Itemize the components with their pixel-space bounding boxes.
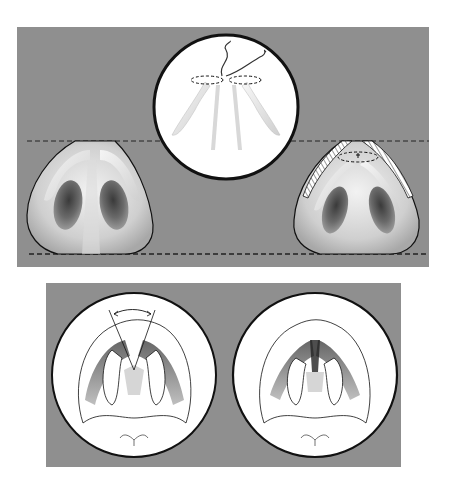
top-illustration [17, 27, 429, 267]
bottom-illustration [46, 283, 401, 467]
approximated-domes-circle [233, 293, 397, 457]
magnified-suture-inset [154, 35, 298, 179]
bottom-panel [46, 283, 401, 467]
top-panel [17, 27, 429, 267]
divergent-domes-circle [52, 293, 216, 457]
